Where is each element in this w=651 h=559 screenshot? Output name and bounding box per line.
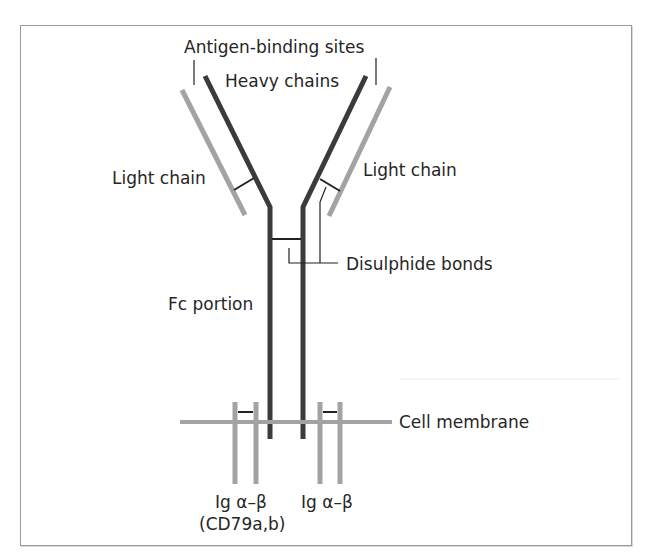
- label-light-chain-right: Light chain: [363, 160, 457, 180]
- label-disulphide-bonds: Disulphide bonds: [346, 254, 493, 274]
- label-fc-portion: Fc portion: [168, 294, 253, 314]
- disulphide-leader-hinge: [289, 248, 338, 263]
- light-chain-right: [329, 87, 390, 216]
- disulphide-bond-left: [234, 178, 254, 190]
- heavy-chain-left: [205, 76, 270, 439]
- disulphide-leader-right: [320, 187, 326, 263]
- label-cd79: (CD79a,b): [199, 514, 285, 534]
- label-antigen-binding-sites: Antigen-binding sites: [184, 37, 364, 57]
- label-ig-ab-right: Ig α–β: [301, 492, 353, 512]
- label-cell-membrane: Cell membrane: [399, 412, 529, 432]
- label-light-chain-left: Light chain: [112, 168, 206, 188]
- disulphide-bond-right: [320, 179, 340, 191]
- label-ig-ab-left: Ig α–β: [215, 492, 267, 512]
- antibody-diagram: Antigen-binding sites Heavy chains Light…: [0, 0, 651, 559]
- light-chain-left: [182, 90, 245, 215]
- label-heavy-chains: Heavy chains: [225, 71, 339, 91]
